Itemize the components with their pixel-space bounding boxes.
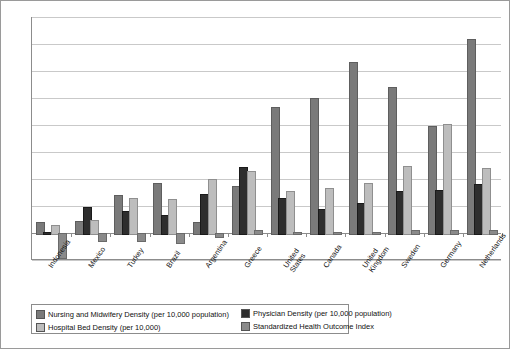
x-tick: [424, 233, 425, 237]
x-tick: [267, 233, 268, 237]
x-tick: [228, 233, 229, 237]
bar: [450, 230, 459, 235]
x-tick: [71, 233, 72, 237]
bar: [176, 233, 185, 244]
x-tick: [385, 233, 386, 237]
x-tick: [345, 233, 346, 237]
bar: [208, 179, 217, 235]
bar: [247, 171, 256, 235]
x-tick: [463, 233, 464, 237]
bar: [215, 233, 224, 238]
legend-item-physician: Physician Density (per 10,000 population…: [241, 307, 398, 319]
legend-label-nursing: Nursing and Midwifery Density (per 10,00…: [48, 310, 229, 319]
bar: [129, 198, 138, 235]
bar: [403, 166, 412, 236]
x-tick: [189, 233, 190, 237]
legend-swatch-nursing: [36, 310, 45, 319]
bar: [411, 230, 420, 235]
x-tick: [150, 233, 151, 237]
bar: [168, 199, 177, 235]
bar: [443, 124, 452, 235]
bar: [98, 233, 107, 242]
grouped-bar-chart: 160140120100806040200-20 IndonesiaMexico…: [0, 0, 510, 349]
x-tick: [306, 233, 307, 237]
bar: [137, 233, 146, 242]
legend-swatch-hospital-bed: [36, 323, 45, 332]
bars-layer: [32, 17, 501, 259]
bar: [372, 232, 381, 235]
legend-label-health-outcome: Standardized Health Outcome Index: [253, 322, 374, 331]
legend-box-right: Physician Density (per 10,000 population…: [237, 304, 402, 334]
legend-swatch-health-outcome: [241, 322, 250, 331]
bar: [293, 232, 302, 235]
legend-label-physician: Physician Density (per 10,000 population…: [253, 309, 392, 318]
legend-item-health-outcome: Standardized Health Outcome Index: [241, 320, 398, 332]
bar: [254, 230, 263, 235]
x-tick: [110, 233, 111, 237]
legend-label-hospital-bed: Hospital Bed Density (per 10,000): [48, 323, 161, 332]
bar: [364, 183, 373, 235]
legend-swatch-physician: [241, 309, 250, 318]
plot-area: 160140120100806040200-20: [31, 17, 501, 260]
bar: [325, 188, 334, 235]
bar: [286, 191, 295, 235]
gridline--20: [32, 260, 501, 261]
bar: [482, 168, 491, 235]
bar: [333, 232, 342, 235]
